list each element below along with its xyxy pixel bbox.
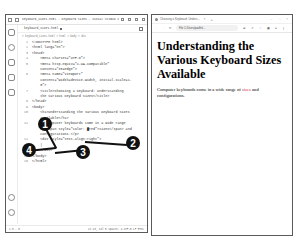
vscode-titlebar: keyboard_sizes.html - Keyboard Sizes - V… [6, 15, 147, 25]
callout-1: 1 [38, 117, 52, 131]
vscode-logo-icon [8, 18, 12, 22]
page-heading: Understanding the Various Keyboard Sizes… [157, 39, 287, 81]
settings-gear-icon[interactable] [8, 209, 15, 216]
vscode-window: keyboard_sizes.html - Keyboard Sizes - V… [5, 14, 148, 233]
reload-icon[interactable]: ↻ [169, 26, 172, 30]
line-text: content="width=device-width, initial-sca… [32, 78, 132, 83]
source-control-icon[interactable] [8, 59, 15, 66]
new-tab-icon[interactable]: + [210, 17, 212, 22]
close-icon[interactable] [142, 18, 145, 21]
callout-2: 2 [126, 136, 140, 150]
tab-close-icon[interactable]: × [204, 17, 206, 21]
browser-tab[interactable]: Choosing a Keyboard: Unders... × [155, 17, 205, 21]
profile-icon[interactable]: ● [275, 26, 277, 30]
browser-window: Choosing a Keyboard: Unders... × + – □ ×… [151, 14, 293, 236]
cursor-status[interactable]: Ln 13, Col 5 Spaces: 4 UTF-8 LF HTML [88, 228, 144, 231]
editor-tab[interactable]: keyboard_sizes.html [18, 25, 147, 33]
share-icon[interactable]: ↗ [251, 26, 254, 30]
screen: keyboard_sizes.html - Keyboard Sizes - V… [0, 0, 295, 245]
browser-tabbar: Choosing a Keyboard: Unders... × + – □ × [152, 15, 292, 24]
close-icon[interactable]: × [286, 17, 288, 21]
zoom-icon[interactable]: ⊕ [243, 26, 246, 30]
code-line[interactable]: 16</html> [18, 159, 147, 164]
line-text: </html> [32, 159, 46, 164]
extensions-icon[interactable] [8, 89, 15, 96]
run-debug-icon[interactable] [8, 74, 15, 81]
browser-toolbar: ← → ↻ File C:/Users/paulfin/... ⊕ ↗ ☆ ▣ … [152, 24, 292, 33]
red-word: sizes [242, 87, 251, 92]
sidebar-icon[interactable]: ▣ [267, 26, 270, 30]
page-paragraph: Computer keyboards come in a wide range … [157, 87, 287, 99]
account-icon[interactable] [8, 194, 15, 201]
tab-label: keyboard_sizes.html [24, 27, 58, 30]
layout-panel-icon[interactable] [128, 18, 131, 21]
minimize-icon[interactable]: – [271, 17, 273, 21]
split-editor-icon[interactable] [139, 27, 143, 31]
unsaved-dot-icon [60, 28, 62, 30]
callout-4: 4 [22, 143, 36, 157]
status-bar: ⊗ 0 ⚠ 0 Ln 13, Col 5 Spaces: 4 UTF-8 LF … [6, 225, 147, 232]
activity-bar [6, 25, 18, 224]
problems-status[interactable]: ⊗ 0 ⚠ 0 [9, 228, 20, 231]
more-menu-icon[interactable]: ⋮ [282, 26, 285, 30]
bookmark-star-icon[interactable]: ☆ [259, 26, 262, 30]
minimize-icon[interactable] [135, 18, 138, 21]
browser-tab-title: Choosing a Keyboard: Unders... [160, 17, 200, 21]
page-content: Understanding the Various Keyboard Sizes… [152, 33, 292, 105]
window-title: keyboard_sizes.html - Keyboard Sizes - V… [22, 18, 119, 21]
search-icon[interactable] [8, 44, 15, 51]
address-bar[interactable]: File C:/Users/paulfin/... [176, 25, 238, 31]
line-number: 16 [18, 159, 32, 164]
back-icon[interactable]: ← [155, 26, 158, 30]
maximize-icon[interactable]: □ [278, 17, 280, 21]
layout-toggle-icon[interactable] [121, 18, 124, 21]
callout-3: 3 [76, 145, 90, 159]
explorer-icon[interactable] [8, 29, 15, 36]
forward-icon[interactable]: → [162, 26, 165, 30]
favicon-icon [155, 18, 158, 21]
menu-icon[interactable] [15, 18, 19, 22]
